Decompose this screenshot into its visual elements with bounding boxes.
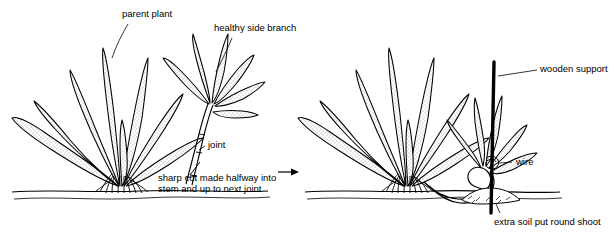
diagram-page: parent plant healthy side branch joint s… <box>0 0 615 237</box>
label-joint: joint <box>208 139 225 151</box>
label-wire: wire <box>516 156 533 168</box>
leader-parent-plant <box>112 24 128 58</box>
label-extra-soil: extra soil put round shoot <box>494 216 601 228</box>
leader-extra-soil <box>496 204 500 213</box>
process-arrow <box>278 169 299 176</box>
diagram-artwork <box>0 0 615 237</box>
label-cut-note-line2: stem and up to next joint <box>158 183 262 195</box>
label-cut-note-line1: sharp cut made halfway into <box>158 172 276 184</box>
leader-wooden-support <box>498 70 537 76</box>
leader-joint <box>199 146 205 150</box>
label-healthy-side-branch: healthy side branch <box>214 22 296 34</box>
right-layered-plant <box>298 48 562 213</box>
label-wooden-support: wooden support <box>540 63 608 75</box>
right-parent-plant-leaves <box>298 48 489 186</box>
label-parent-plant: parent plant <box>122 8 172 20</box>
